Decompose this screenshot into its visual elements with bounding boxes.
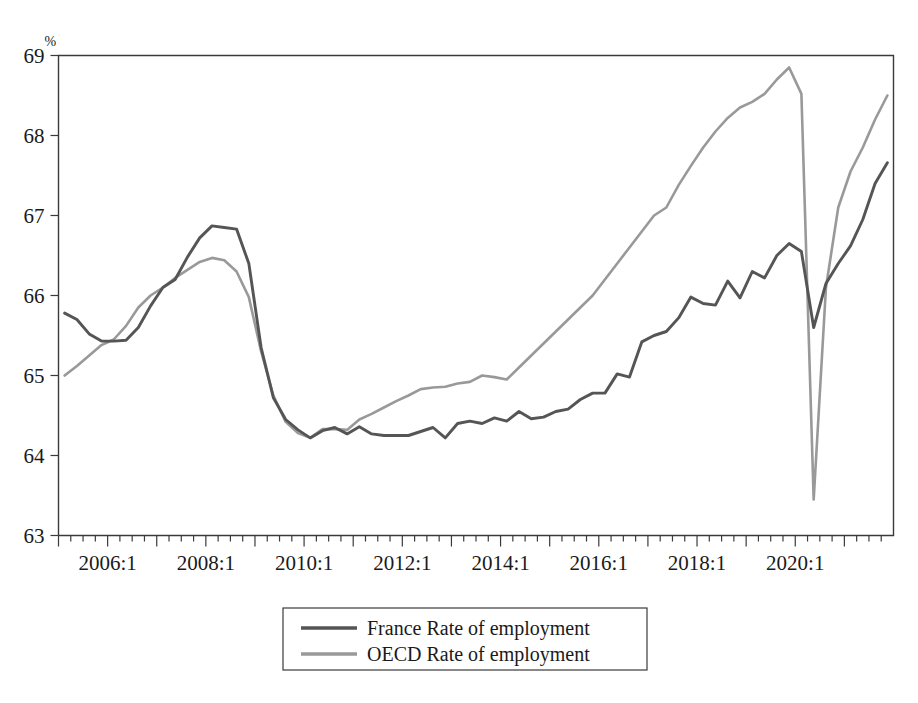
x-axis-labels: 2006:12008:12010:12012:12014:12016:12018… bbox=[78, 551, 824, 575]
y-axis-tick-label: 69 bbox=[24, 44, 45, 68]
y-axis-tick-label: 66 bbox=[24, 284, 45, 308]
x-axis-tick-label: 2020:1 bbox=[766, 551, 824, 575]
x-axis-tick-label: 2016:1 bbox=[570, 551, 628, 575]
y-axis-tick-label: 65 bbox=[24, 364, 45, 388]
employment-rate-chart: 63646566676869 2006:12008:12010:12012:12… bbox=[0, 0, 918, 703]
series-line-oecd bbox=[65, 68, 888, 500]
chart-legend: France Rate of employmentOECD Rate of em… bbox=[283, 608, 647, 670]
x-axis-tick-label: 2014:1 bbox=[471, 551, 529, 575]
y-axis-unit-marker: % bbox=[45, 34, 57, 49]
y-axis-tick-label: 64 bbox=[24, 444, 46, 468]
series-layer bbox=[65, 68, 888, 500]
x-axis-tick-label: 2008:1 bbox=[177, 551, 235, 575]
x-axis-tick-label: 2012:1 bbox=[373, 551, 431, 575]
plot-frame bbox=[59, 56, 894, 536]
y-axis-labels: 63646566676869 bbox=[24, 44, 46, 548]
y-axis-unit-label: % bbox=[45, 34, 57, 49]
legend-label: France Rate of employment bbox=[367, 617, 590, 640]
legend-label: OECD Rate of employment bbox=[367, 643, 590, 666]
chart-canvas: 63646566676869 2006:12008:12010:12012:12… bbox=[0, 0, 918, 703]
y-axis-ticks bbox=[51, 56, 59, 536]
x-axis-ticks bbox=[59, 536, 882, 547]
y-axis-tick-label: 67 bbox=[24, 204, 45, 228]
x-axis-tick-label: 2006:1 bbox=[78, 551, 136, 575]
y-axis-tick-label: 63 bbox=[24, 524, 45, 548]
x-axis-tick-label: 2018:1 bbox=[668, 551, 726, 575]
x-axis-tick-label: 2010:1 bbox=[275, 551, 333, 575]
y-axis-tick-label: 68 bbox=[24, 124, 45, 148]
series-line-france bbox=[65, 163, 888, 438]
